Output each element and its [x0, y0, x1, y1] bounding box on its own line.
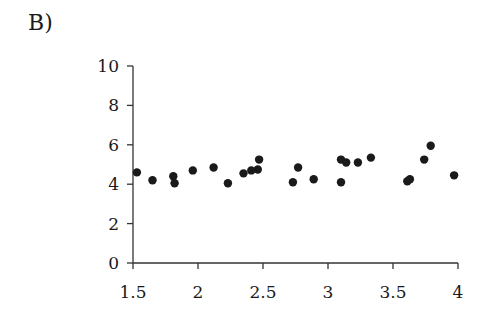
- data-point: [255, 155, 263, 163]
- data-point: [209, 163, 217, 171]
- data-point: [254, 165, 262, 173]
- y-tick-label: 8: [108, 95, 119, 115]
- data-point: [289, 178, 297, 186]
- x-tick-label: 4: [453, 282, 464, 302]
- x-tick-label: 2: [193, 282, 204, 302]
- data-point: [450, 171, 458, 179]
- data-point: [337, 178, 345, 186]
- data-point: [420, 155, 428, 163]
- data-point: [170, 179, 178, 187]
- y-tick-label: 4: [108, 174, 119, 194]
- y-tick-label: 0: [108, 253, 119, 273]
- x-tick-label: 2.5: [249, 282, 276, 302]
- data-point: [354, 158, 362, 166]
- data-point: [310, 175, 318, 183]
- data-point: [224, 179, 232, 187]
- data-point: [148, 176, 156, 184]
- data-point: [133, 168, 141, 176]
- data-point: [367, 153, 375, 161]
- data-point: [189, 166, 197, 174]
- y-tick-label: 6: [108, 135, 119, 155]
- x-tick-label: 3: [323, 282, 334, 302]
- x-tick-label: 3.5: [379, 282, 406, 302]
- y-tick-label: 2: [108, 214, 119, 234]
- x-tick-label: 1.5: [119, 282, 146, 302]
- data-point: [427, 142, 435, 150]
- chart-figure: B) 1.522.533.540246810: [0, 0, 492, 319]
- y-tick-label: 10: [97, 56, 119, 76]
- data-point: [406, 175, 414, 183]
- data-point: [294, 163, 302, 171]
- data-point: [239, 169, 247, 177]
- scatter-plot: 1.522.533.540246810: [0, 0, 492, 319]
- data-point: [342, 158, 350, 166]
